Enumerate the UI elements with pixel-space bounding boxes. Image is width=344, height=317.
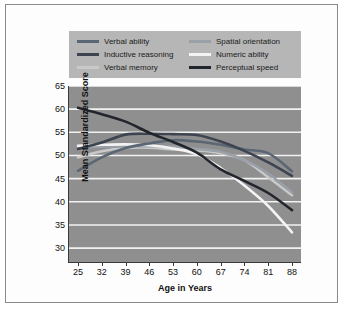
- x-axis-tickmark: [102, 262, 103, 266]
- x-axis-tickmark: [292, 262, 293, 266]
- y-axis-tick-label: 55: [39, 128, 65, 137]
- legend-swatch-icon: [189, 66, 211, 69]
- chart-legend: Verbal abilitySpatial orientationInducti…: [69, 31, 301, 78]
- legend-label: Perceptual speed: [216, 63, 278, 73]
- x-axis-line: [68, 262, 301, 263]
- legend-entry: Spatial orientation: [189, 37, 295, 47]
- legend-swatch-icon: [189, 53, 211, 56]
- x-axis-tick-label: 46: [138, 268, 160, 277]
- legend-entry: Numeric ability: [189, 50, 295, 60]
- y-axis-tick-label: 60: [39, 105, 65, 114]
- y-axis-line: [68, 86, 69, 262]
- legend-label: Verbal memory: [104, 63, 158, 73]
- y-axis-tick-label: 40: [39, 198, 65, 207]
- x-axis-tickmark: [221, 262, 222, 266]
- x-axis-tick-label: 88: [281, 268, 303, 277]
- figure-page: Verbal abilitySpatial orientationInducti…: [0, 0, 344, 317]
- x-axis-tick-label: 67: [210, 268, 232, 277]
- legend-label: Inductive reasoning: [104, 50, 173, 60]
- x-axis-tick-label: 81: [257, 268, 279, 277]
- legend-swatch-icon: [77, 40, 99, 43]
- x-axis-tickmark: [78, 262, 79, 266]
- legend-entry: Verbal ability: [77, 37, 183, 47]
- x-axis-tickmark: [173, 262, 174, 266]
- x-axis-tick-label: 74: [233, 268, 255, 277]
- legend-swatch-icon: [189, 40, 211, 43]
- x-axis-tickmark: [268, 262, 269, 266]
- y-axis-tick-label: 65: [39, 82, 65, 91]
- y-axis-title: Mean Standardized Score: [80, 67, 90, 187]
- x-axis-tick-label: 32: [91, 268, 113, 277]
- x-axis-tickmark: [149, 262, 150, 266]
- x-axis-tick-label: 39: [115, 268, 137, 277]
- x-axis-tickmark: [244, 262, 245, 266]
- legend-entry: Inductive reasoning: [77, 50, 183, 60]
- x-axis-title: Age in Years: [69, 283, 301, 293]
- y-axis-tick-label: 50: [39, 151, 65, 160]
- legend-label: Spatial orientation: [216, 37, 280, 47]
- legend-swatch-icon: [77, 53, 99, 56]
- x-axis-tick-label: 25: [67, 268, 89, 277]
- x-axis-tick-label: 60: [186, 268, 208, 277]
- legend-label: Numeric ability: [216, 50, 268, 60]
- x-axis-tickmark: [197, 262, 198, 266]
- x-axis-tickmark: [126, 262, 127, 266]
- y-axis-tick-label: 35: [39, 221, 65, 230]
- x-axis-tick-label: 53: [162, 268, 184, 277]
- figure-frame: Verbal abilitySpatial orientationInducti…: [5, 4, 338, 303]
- plot-wrapper: Mean Standardized Score Age in Years 656…: [69, 86, 301, 262]
- y-axis-tick-label: 45: [39, 175, 65, 184]
- legend-entry: Verbal memory: [77, 63, 183, 73]
- legend-entry: Perceptual speed: [189, 63, 295, 73]
- legend-label: Verbal ability: [104, 37, 149, 47]
- y-axis-tick-label: 30: [39, 244, 65, 253]
- chart-lines: [69, 86, 301, 262]
